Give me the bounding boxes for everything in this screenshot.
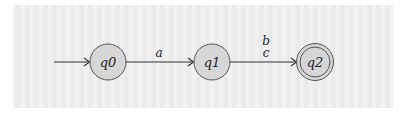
automaton-diagram: q0 a q1 b c q2	[0, 0, 405, 114]
transition-label-c: c	[263, 46, 270, 60]
state-q1[interactable]: q1	[194, 44, 230, 80]
state-label-q0: q0	[100, 55, 117, 70]
transition-q1-q2: b c	[230, 34, 297, 66]
state-q0[interactable]: q0	[90, 44, 126, 80]
start-arrow	[54, 58, 90, 66]
transition-q0-q1: a	[126, 46, 194, 66]
state-q2[interactable]: q2	[297, 44, 334, 81]
transition-label-a: a	[155, 46, 162, 60]
state-label-q1: q1	[204, 55, 221, 70]
state-label-q2: q2	[307, 55, 324, 70]
